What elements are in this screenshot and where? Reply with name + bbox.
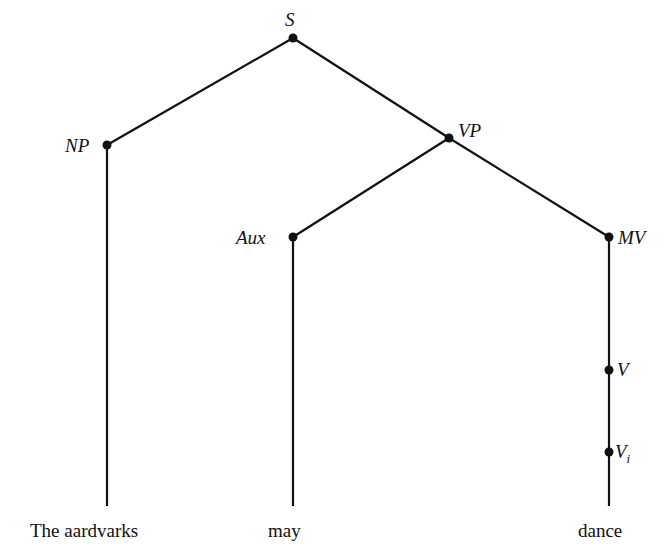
node-label-vi: Vi xyxy=(615,441,631,466)
node-label-mv: MV xyxy=(617,227,648,248)
node-label-vi-subscript: i xyxy=(627,451,631,466)
word-may: may xyxy=(268,520,301,541)
node-label-v: V xyxy=(617,359,631,380)
syntax-tree-diagram: S NP VP Aux MV V Vi The aardvarks may da… xyxy=(0,0,672,560)
edge-s-np xyxy=(107,38,293,145)
node-dot-v xyxy=(605,366,614,375)
edge-s-vp xyxy=(293,38,449,138)
edge-vp-mv xyxy=(449,138,609,237)
node-dot-s xyxy=(289,34,298,43)
node-dot-np xyxy=(103,141,112,150)
node-label-s: S xyxy=(285,9,295,30)
word-the-aardvarks: The aardvarks xyxy=(30,520,138,541)
node-dot-aux xyxy=(289,233,298,242)
node-label-aux: Aux xyxy=(234,227,266,248)
node-dot-mv xyxy=(605,233,614,242)
node-label-vp: VP xyxy=(458,120,482,141)
node-dot-vp xyxy=(445,134,454,143)
node-dot-vi xyxy=(605,448,614,457)
node-label-np: NP xyxy=(64,135,90,156)
word-dance: dance xyxy=(578,520,622,541)
edge-vp-aux xyxy=(293,138,449,237)
